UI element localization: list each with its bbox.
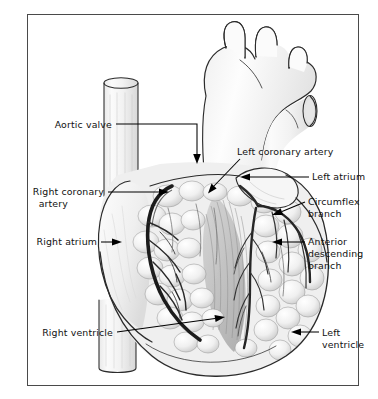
label-anterior-descending-branch: Anterior (308, 236, 347, 247)
label-left-coronary-artery: Left coronary artery (237, 146, 334, 157)
label-right-ventricle: Right ventricle (42, 327, 113, 338)
label-left-ventricle: Left (322, 327, 340, 338)
label-circumflex-branch-line2: branch (308, 208, 342, 219)
label-right-coronary-artery-line2: artery (39, 198, 69, 209)
label-right-atrium: Right atrium (37, 236, 97, 247)
label-left-atrium: Left atrium (312, 171, 365, 182)
label-aortic-valve: Aortic valve (55, 119, 112, 130)
label-circumflex-branch: Circumflex (308, 196, 360, 207)
heart-anatomy-figure: Aortic valve Right coronary artery Right… (0, 0, 378, 399)
label-anterior-descending-branch-line3: branch (308, 260, 342, 271)
label-right-coronary-artery: Right coronary (33, 186, 104, 197)
label-anterior-descending-branch-line2: descending (308, 248, 363, 259)
label-left-ventricle-line2: ventricle (322, 339, 364, 350)
